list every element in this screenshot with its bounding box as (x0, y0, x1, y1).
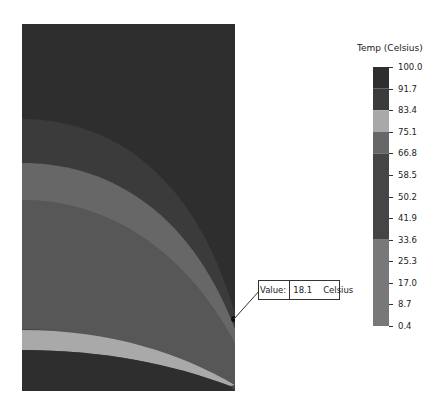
legend-tick-mark (389, 67, 393, 68)
legend-tick-mark (389, 175, 393, 176)
contour-plot[interactable] (22, 24, 235, 391)
legend-tick-mark (389, 261, 393, 262)
legend-tick-mark (389, 89, 393, 90)
legend-tick-label: 75.1 (398, 127, 417, 137)
legend-tick-label: 17.0 (398, 278, 417, 288)
legend-tick-label: 25.3 (398, 256, 417, 266)
legend-tick-label: 66.8 (398, 148, 417, 158)
legend-tick-mark (389, 326, 393, 327)
legend-tick-label: 41.9 (398, 213, 417, 223)
probe-value: 18.1 (293, 285, 312, 295)
legend-tick-mark (389, 283, 393, 284)
legend-tick-mark (389, 110, 393, 111)
legend-tick-label: 91.7 (398, 84, 417, 94)
legend-title: Temp (Celsius) (357, 43, 423, 53)
legend-tick-label: 58.5 (398, 170, 417, 180)
probe-value-box: Value: 18.1 Celsius (258, 280, 340, 300)
legend-tick-mark (389, 304, 393, 305)
legend-tick-mark (389, 240, 393, 241)
legend-tick-mark (389, 132, 393, 133)
legend-tick-label: 100.0 (398, 62, 422, 72)
legend-tick-label: 50.2 (398, 192, 417, 202)
legend-tick-mark (389, 197, 393, 198)
color-legend-bar (373, 67, 389, 326)
legend-tick-label: 33.6 (398, 235, 417, 245)
probe-label: Value: (259, 281, 290, 299)
probe-unit: Celsius (323, 285, 353, 295)
legend-tick-label: 83.4 (398, 105, 417, 115)
legend-tick-label: 0.4 (398, 321, 412, 331)
legend-tick-mark (389, 218, 393, 219)
legend-tick-mark (389, 153, 393, 154)
probe-value-group: 18.1 Celsius (290, 281, 356, 299)
legend-tick-label: 8.7 (398, 299, 412, 309)
